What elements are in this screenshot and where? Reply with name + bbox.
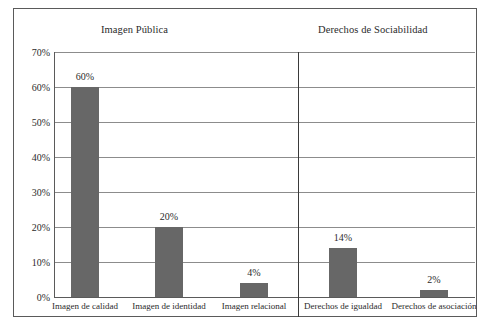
x-axis-labels: Imagen de calidad Imagen de identidad Im… xyxy=(13,300,477,317)
bar-value-label-1: 20% xyxy=(160,211,178,222)
y-axis-ticks: 70% 60% 50% 40% 30% 20% 10% 0% xyxy=(8,52,50,297)
y-tick-label-10: 10% xyxy=(10,257,50,268)
x-tick-label-derechos-de-asociacion: Derechos de asociación xyxy=(392,301,477,311)
bar-value-label-2: 4% xyxy=(247,267,260,278)
x-tick-label-derechos-de-igualdad: Derechos de igualdad xyxy=(304,301,382,311)
bar-value-label-4: 2% xyxy=(427,274,440,285)
y-tick-label-20: 20% xyxy=(10,222,50,233)
y-tick-label-40: 40% xyxy=(10,152,50,163)
bar-slot-imagen-de-identidad: 20% xyxy=(155,52,183,297)
bar-slot-imagen-de-calidad: 60% xyxy=(71,52,99,297)
bar-slot-imagen-relacional: 4% xyxy=(240,52,268,297)
x-tick-label-imagen-relacional: Imagen relacional xyxy=(222,301,287,311)
bar-derechos-de-asociacion[interactable] xyxy=(420,290,448,297)
y-tick-label-60: 60% xyxy=(10,82,50,93)
y-tick-label-50: 50% xyxy=(10,117,50,128)
bar-value-label-0: 60% xyxy=(76,71,94,82)
group-header-imagen-publica: Imagen Pública xyxy=(101,24,168,35)
bar-slot-derechos-de-asociacion: 2% xyxy=(420,52,448,297)
bar-slot-derechos-de-igualdad: 14% xyxy=(329,52,357,297)
x-tick-label-imagen-de-identidad: Imagen de identidad xyxy=(132,301,205,311)
x-tick-label-imagen-de-calidad: Imagen de calidad xyxy=(52,301,118,311)
bar-imagen-de-identidad[interactable] xyxy=(155,227,183,297)
axis-baseline-0 xyxy=(54,297,475,298)
bar-series: 60% 20% 4% 14% 2% xyxy=(54,52,475,297)
group-divider-line xyxy=(298,52,299,317)
group-header-derechos-de-sociabilidad: Derechos de Sociabilidad xyxy=(318,24,428,35)
bar-derechos-de-igualdad[interactable] xyxy=(329,248,357,297)
group-header-row: Imagen Pública Derechos de Sociabilidad xyxy=(0,24,486,42)
chart-figure: Imagen Pública Derechos de Sociabilidad … xyxy=(0,0,486,325)
y-tick-label-70: 70% xyxy=(10,47,50,58)
y-tick-label-30: 30% xyxy=(10,187,50,198)
bar-imagen-relacional[interactable] xyxy=(240,283,268,297)
bar-imagen-de-calidad[interactable] xyxy=(71,87,99,297)
bar-value-label-3: 14% xyxy=(334,232,352,243)
